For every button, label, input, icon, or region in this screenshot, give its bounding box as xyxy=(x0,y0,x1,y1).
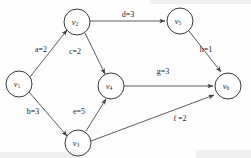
nodes-group: v1 v2 v3 v4 v5 v6 xyxy=(6,8,241,156)
graph-canvas: v1 v2 v3 v4 v5 v6 a=2 xyxy=(0,0,251,158)
edge-label-f: f =2 xyxy=(173,114,186,123)
edge-label-d: d=3 xyxy=(122,10,135,19)
edge-label-a: a=2 xyxy=(35,45,47,54)
edges-group xyxy=(29,21,221,141)
edge-v2-v4 xyxy=(85,33,105,74)
node-v5[interactable]: v5 xyxy=(167,8,193,34)
node-v6[interactable]: v6 xyxy=(215,73,241,99)
edge-v3-v4 xyxy=(86,99,106,131)
node-v3[interactable]: v3 xyxy=(65,130,91,156)
edge-label-c: c=2 xyxy=(69,47,81,56)
edge-label-b: b=3 xyxy=(27,107,40,116)
edge-v3-v6 xyxy=(91,95,214,141)
edge-label-g: g=3 xyxy=(157,67,170,76)
node-v1[interactable]: v1 xyxy=(6,71,32,97)
node-v2[interactable]: v2 xyxy=(64,9,90,35)
node-v4[interactable]: v4 xyxy=(98,73,124,99)
edge-label-e: e=5 xyxy=(73,107,85,116)
graph-diagram-container: v1 v2 v3 v4 v5 v6 a=2 xyxy=(0,0,251,158)
edge-label-h: h=1 xyxy=(200,45,213,54)
